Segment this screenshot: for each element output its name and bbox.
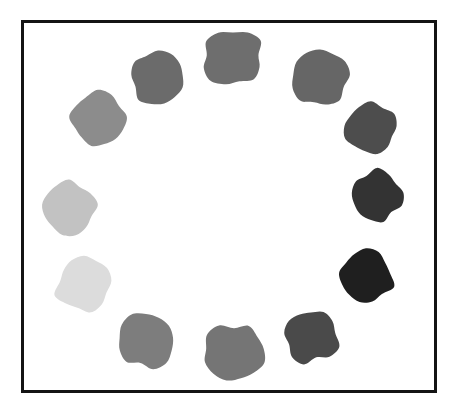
figure-root [0,0,462,412]
plot-frame [21,20,437,393]
